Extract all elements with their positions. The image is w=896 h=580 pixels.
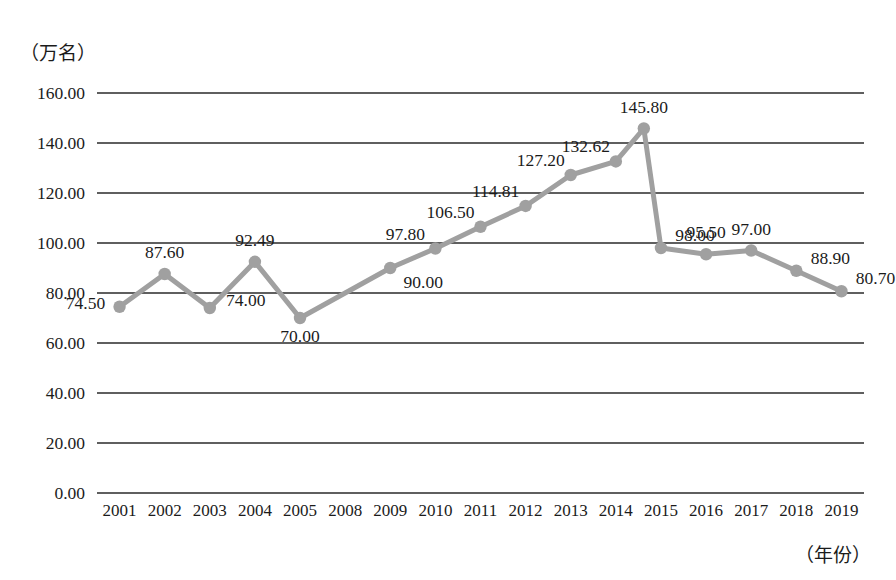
data-point-label: 74.50 bbox=[66, 293, 106, 313]
x-tick-label: 2016 bbox=[689, 501, 723, 520]
x-tick-label: 2017 bbox=[734, 501, 769, 520]
data-point-label: 92.49 bbox=[235, 230, 275, 250]
data-point-label: 132.62 bbox=[562, 136, 610, 156]
x-tick-label: 2013 bbox=[554, 501, 588, 520]
data-point-label: 127.20 bbox=[517, 150, 565, 170]
data-point-label: 114.81 bbox=[472, 181, 519, 201]
x-tick-label: 2014 bbox=[599, 501, 634, 520]
data-point-label: 87.60 bbox=[145, 242, 185, 262]
x-tick-label: 2019 bbox=[824, 501, 858, 520]
x-axis-caption-label: （年份） bbox=[795, 545, 871, 566]
data-marker bbox=[158, 268, 170, 280]
data-point-label: 145.80 bbox=[620, 97, 668, 117]
data-marker bbox=[519, 200, 531, 212]
data-point-label: 80.70 bbox=[856, 268, 896, 288]
x-tick-label: 2008 bbox=[328, 501, 362, 520]
y-tick-label: 0.00 bbox=[54, 483, 85, 503]
data-point-label: 74.00 bbox=[226, 290, 266, 310]
y-tick-label: 120.00 bbox=[37, 183, 85, 203]
data-marker bbox=[474, 221, 486, 233]
y-tick-label: 60.00 bbox=[46, 333, 86, 353]
data-point-label: 95.50 bbox=[686, 222, 726, 242]
x-tick-label: 2003 bbox=[193, 501, 227, 520]
data-marker bbox=[610, 155, 622, 167]
data-marker bbox=[204, 302, 216, 314]
x-tick-label: 2002 bbox=[148, 501, 182, 520]
data-point-label: 97.00 bbox=[732, 219, 772, 239]
data-point-label: 97.80 bbox=[386, 224, 426, 244]
data-point-label: 70.00 bbox=[280, 326, 320, 346]
data-marker bbox=[835, 285, 847, 297]
x-axis-tick-labels: 2001200220032004200520082009201020112012… bbox=[103, 501, 859, 520]
data-marker bbox=[700, 248, 712, 260]
data-marker bbox=[565, 169, 577, 181]
data-point-label: 88.90 bbox=[811, 248, 851, 268]
data-marker bbox=[249, 256, 261, 268]
x-tick-label: 2005 bbox=[283, 501, 317, 520]
data-marker bbox=[745, 244, 757, 256]
x-tick-label: 2011 bbox=[464, 501, 497, 520]
chart-figure: 160.00140.00120.00100.0080.0060.0040.002… bbox=[0, 0, 896, 580]
data-marker bbox=[113, 301, 125, 313]
x-tick-label: 2010 bbox=[418, 501, 452, 520]
y-tick-label: 20.00 bbox=[46, 433, 86, 453]
data-marker bbox=[655, 242, 667, 254]
line-chart: 160.00140.00120.00100.0080.0060.0040.002… bbox=[0, 0, 896, 580]
y-tick-label: 40.00 bbox=[46, 383, 86, 403]
x-tick-label: 2001 bbox=[103, 501, 137, 520]
data-marker bbox=[429, 242, 441, 254]
data-marker bbox=[638, 122, 650, 134]
x-tick-label: 2018 bbox=[779, 501, 813, 520]
y-tick-label: 160.00 bbox=[37, 83, 85, 103]
x-tick-label: 2012 bbox=[509, 501, 543, 520]
data-marker bbox=[294, 312, 306, 324]
x-tick-label: 2015 bbox=[644, 501, 678, 520]
x-tick-label: 2009 bbox=[373, 501, 407, 520]
y-tick-label: 140.00 bbox=[37, 133, 85, 153]
data-point-label: 90.00 bbox=[404, 272, 444, 292]
data-point-label: 106.50 bbox=[426, 202, 474, 222]
data-marker bbox=[384, 262, 396, 274]
y-tick-label: 100.00 bbox=[37, 233, 85, 253]
y-axis-unit-label: （万名） bbox=[20, 43, 96, 64]
x-tick-label: 2004 bbox=[238, 501, 273, 520]
data-marker bbox=[790, 265, 802, 277]
